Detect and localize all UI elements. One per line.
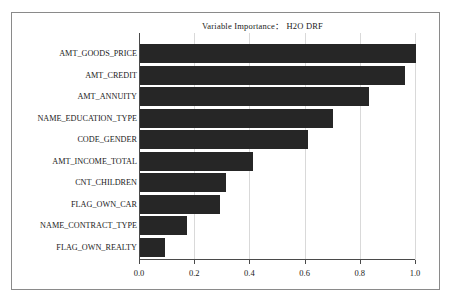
bar (140, 130, 308, 149)
x-tick-label: 0.0 (134, 268, 145, 278)
chart-figure: Variable Importance： H2O DRF AMT_GOODS_P… (11, 12, 440, 290)
plot-inner: AMT_GOODS_PRICEAMT_CREDITAMT_ANNUITYNAME… (139, 33, 415, 260)
y-axis-category-label: FLAG_OWN_REALTY (56, 238, 137, 257)
y-axis-category-label: CODE_GENDER (77, 130, 137, 149)
x-axis-line (139, 259, 415, 260)
bar (140, 66, 405, 85)
gridline (415, 33, 416, 260)
bar (140, 44, 416, 63)
x-tick-label: 0.8 (354, 268, 365, 278)
y-axis-category-label: NAME_EDUCATION_TYPE (37, 109, 137, 128)
x-tick-label: 1.0 (410, 268, 421, 278)
bar (140, 216, 187, 235)
x-tick-mark (139, 260, 140, 264)
bar (140, 238, 165, 257)
bar (140, 195, 220, 214)
x-tick-mark (194, 260, 195, 264)
y-axis-category-label: AMT_CREDIT (85, 66, 137, 85)
y-axis-category-label: NAME_CONTRACT_TYPE (40, 216, 137, 235)
bar (140, 152, 253, 171)
bar (140, 109, 333, 128)
x-tick-mark (305, 260, 306, 264)
y-axis-category-label: CNT_CHILDREN (75, 173, 137, 192)
y-axis-category-label: AMT_GOODS_PRICE (59, 44, 137, 63)
chart-title: Variable Importance： H2O DRF (12, 19, 439, 31)
bar (140, 173, 226, 192)
x-tick-mark (360, 260, 361, 264)
bar (140, 87, 369, 106)
y-axis-category-label: FLAG_OWN_CAR (71, 195, 137, 214)
y-axis-category-label: AMT_INCOME_TOTAL (52, 152, 137, 171)
x-tick-mark (415, 260, 416, 264)
x-tick-mark (249, 260, 250, 264)
y-axis-category-label: AMT_ANNUITY (77, 87, 137, 106)
plot-area: AMT_GOODS_PRICEAMT_CREDITAMT_ANNUITYNAME… (139, 33, 415, 260)
x-tick-label: 0.2 (189, 268, 200, 278)
x-tick-label: 0.4 (244, 268, 255, 278)
x-tick-label: 0.6 (299, 268, 310, 278)
